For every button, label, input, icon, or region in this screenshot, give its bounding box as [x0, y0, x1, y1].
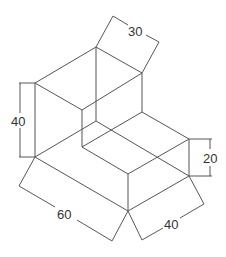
- dimension-length: 60: [19, 157, 128, 241]
- dimension-height: 40: [11, 83, 35, 157]
- isometric-drawing: 30 40 20 60 40: [0, 0, 226, 257]
- dimension-label: 40: [11, 114, 25, 129]
- dimension-width: 40: [128, 176, 204, 240]
- dimension-label: 30: [128, 24, 142, 39]
- dimension-label: 20: [203, 151, 217, 166]
- dimension-label: 60: [57, 207, 71, 222]
- dimension-step-height: 20: [189, 139, 217, 176]
- solid-edges: [35, 47, 189, 211]
- dimension-label: 40: [164, 217, 178, 232]
